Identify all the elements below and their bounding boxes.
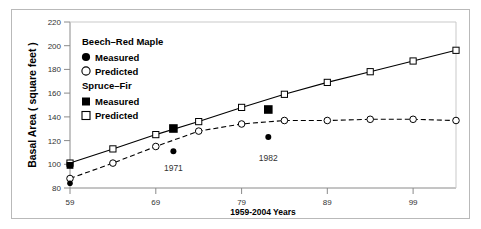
measured-point-beech-1959 xyxy=(67,181,73,187)
legend-label-spruce-predicted: Predicted xyxy=(95,110,138,121)
y-tick-label: 120 xyxy=(48,137,62,146)
legend-filled-circle-icon xyxy=(82,53,90,61)
x-tick-label: 69 xyxy=(151,198,160,207)
y-tick-label: 220 xyxy=(48,18,62,27)
measured-point-beech-1982 xyxy=(265,134,271,140)
x-tick-label: 59 xyxy=(66,198,75,207)
x-tick-label: 79 xyxy=(237,198,246,207)
legend-heading-spruce-fir: Spruce–Fir xyxy=(82,80,132,91)
x-axis-ticks xyxy=(70,188,413,194)
chart-plot-area: 80 100 120 140 160 180 200 220 59 69 79 … xyxy=(0,0,481,229)
y-axis-tick-labels: 80 100 120 140 160 180 200 220 xyxy=(48,18,62,193)
y-tick-label: 200 xyxy=(48,42,62,51)
legend-heading-beech-red-maple: Beech–Red Maple xyxy=(82,36,163,47)
annotation-1982: 1982 xyxy=(259,153,278,163)
x-axis-title: 1959-2004 Years xyxy=(230,207,296,217)
measured-point-spruce-1971 xyxy=(169,124,178,133)
annotation-1971: 1971 xyxy=(164,163,183,173)
x-tick-label: 89 xyxy=(323,198,332,207)
series-beech-red-maple-predicted xyxy=(67,116,460,182)
legend-open-square-icon xyxy=(82,112,90,120)
measured-point-beech-1971 xyxy=(170,148,176,154)
chart-figure: 80 100 120 140 160 180 200 220 59 69 79 … xyxy=(0,0,481,229)
legend-open-circle-icon xyxy=(82,67,90,75)
legend-filled-square-icon xyxy=(82,98,90,106)
legend-label-spruce-measured: Measured xyxy=(95,96,140,107)
y-axis-title: Basal Area ( square feet ) xyxy=(26,42,38,168)
y-tick-label: 100 xyxy=(48,160,62,169)
y-tick-label: 80 xyxy=(52,184,61,193)
legend-label-beech-measured: Measured xyxy=(95,52,140,63)
legend-label-beech-predicted: Predicted xyxy=(95,66,138,77)
measured-point-spruce-1959 xyxy=(67,162,74,169)
measured-point-spruce-1982 xyxy=(264,105,273,114)
y-tick-label: 160 xyxy=(48,89,62,98)
x-axis-tick-labels: 59 69 79 89 99 xyxy=(66,198,419,207)
x-tick-label: 99 xyxy=(409,198,418,207)
y-tick-label: 180 xyxy=(48,65,62,74)
series-markers xyxy=(67,116,460,182)
y-tick-label: 140 xyxy=(48,113,62,122)
chart-legend: Beech–Red Maple Measured Predicted Spruc… xyxy=(82,36,163,121)
